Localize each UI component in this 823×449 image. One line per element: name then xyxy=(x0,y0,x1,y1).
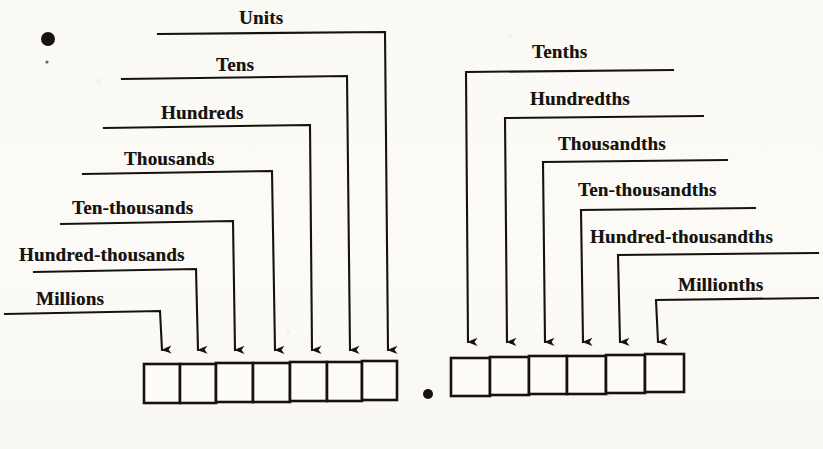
label-millionths: Millionths xyxy=(678,275,763,294)
label-hundredths: Hundredths xyxy=(530,89,630,108)
label-hundred-thousandths: Hundred-thousandths xyxy=(590,227,773,246)
label-hundred-thousands: Hundred-thousands xyxy=(19,245,185,264)
integer-box-row xyxy=(144,361,397,403)
place-box-thousandths xyxy=(529,356,567,394)
stray-speck xyxy=(45,60,48,63)
place-box-ten-thousands xyxy=(216,363,253,402)
leader-line-hundred-thousands xyxy=(34,269,198,350)
label-units: Units xyxy=(239,8,283,27)
label-ten-thousandths: Ten-thousandths xyxy=(578,180,717,199)
label-hundreds: Hundreds xyxy=(161,103,244,122)
leader-line-millions xyxy=(5,311,162,350)
leader-line-ten-thousands xyxy=(61,221,235,350)
label-tens: Tens xyxy=(216,55,254,74)
label-thousandths: Thousandths xyxy=(558,134,666,153)
label-ten-thousands: Ten-thousands xyxy=(72,198,193,217)
place-box-hundred-thousands xyxy=(180,364,216,403)
label-millions: Millions xyxy=(36,289,104,308)
place-box-hundred-thousandths xyxy=(606,355,645,393)
place-box-hundredths xyxy=(490,357,529,395)
place-box-units xyxy=(362,361,397,400)
place-box-ten-thousandths xyxy=(567,356,606,394)
label-thousands: Thousands xyxy=(124,149,215,168)
place-box-tenths xyxy=(451,358,490,396)
leader-line-millionths xyxy=(656,298,818,342)
place-box-tens xyxy=(327,362,362,401)
place-box-millionths xyxy=(645,354,684,392)
place-value-diagram: Units Tens Hundreds Thousands Ten-thousa… xyxy=(0,0,823,449)
place-box-hundreds xyxy=(290,362,327,401)
place-box-millions xyxy=(144,364,180,403)
decimal-box-row xyxy=(451,354,684,396)
diagram-canvas xyxy=(0,0,823,449)
label-tenths: Tenths xyxy=(532,42,587,61)
leader-line-tenths xyxy=(466,70,673,342)
place-box-thousands xyxy=(253,363,290,402)
decimal-point-dot xyxy=(423,389,433,399)
top-left-dot xyxy=(41,32,55,46)
